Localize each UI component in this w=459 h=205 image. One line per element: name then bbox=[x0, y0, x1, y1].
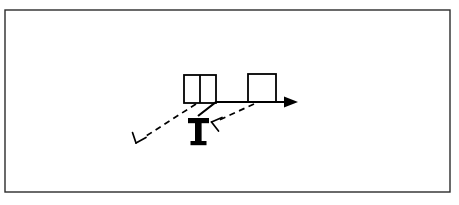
divided-double-cell-box bbox=[184, 75, 216, 103]
technical-figure-canvas bbox=[0, 0, 459, 205]
bottom-caption-text bbox=[0, 198, 459, 205]
t-support-stem bbox=[195, 122, 202, 142]
figure-page bbox=[0, 0, 459, 205]
t-support-foot bbox=[191, 141, 207, 145]
single-square-box bbox=[248, 74, 276, 102]
